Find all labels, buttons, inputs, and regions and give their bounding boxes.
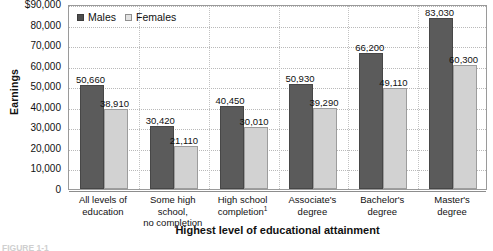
x-axis-category-label: Master'sdegree <box>417 194 487 217</box>
bar-value-label: 66,200 <box>355 43 384 53</box>
gridline <box>69 27 486 28</box>
y-axis-tick-label: 40,000 <box>30 103 61 113</box>
x-axis-category-line: Some high school, <box>138 194 208 217</box>
y-axis-tick-label: 60,000 <box>30 62 61 72</box>
x-axis-category-line: degree <box>278 206 348 218</box>
y-axis-tick-label: 20,000 <box>30 144 61 154</box>
gridline <box>69 109 486 110</box>
bar-females <box>313 108 337 189</box>
bar-value-label: 21,110 <box>170 136 198 146</box>
y-axis-tick-label: 30,000 <box>30 123 61 133</box>
gridline <box>69 88 486 89</box>
group-separator <box>139 6 140 189</box>
x-axis-category-label: All levels ofeducation <box>68 194 138 217</box>
bar-value-label: 50,930 <box>285 74 314 84</box>
axis-baseline <box>69 191 486 192</box>
gridline <box>69 47 486 48</box>
x-axis-category-line: degree <box>347 206 417 218</box>
group-separator <box>279 6 280 189</box>
x-axis-category-label: Bachelor'sdegree <box>347 194 417 217</box>
bar-males <box>429 18 453 189</box>
x-axis-title: Highest level of educational attainment <box>68 224 487 236</box>
x-axis-category-label: Associate'sdegree <box>278 194 348 217</box>
x-axis-category-label: High schoolcompletion1 <box>208 194 278 217</box>
bar-value-label: 39,290 <box>309 98 338 108</box>
x-axis-category-line: education <box>68 206 138 218</box>
bar-value-label: 38,910 <box>100 99 129 109</box>
legend-swatch-females-icon <box>125 14 132 21</box>
bar-females <box>244 127 268 189</box>
gridline <box>69 150 486 151</box>
y-axis-tick-label: 50,000 <box>30 82 61 92</box>
x-axis-category-line: Master's <box>417 194 487 206</box>
y-axis-tick-label: 0 <box>55 185 61 195</box>
x-axis-category-line: Bachelor's <box>347 194 417 206</box>
group-separator <box>348 6 349 189</box>
y-axis-tick-label: 80,000 <box>30 21 61 31</box>
legend-item-females: Females <box>125 11 176 23</box>
footnote-marker: 1 <box>264 204 268 211</box>
figure-caption: FIGURE 1-1 <box>2 243 49 251</box>
bar-value-label: 50,660 <box>76 75 105 85</box>
figure-container: Earnings $90,00080,00070,00060,00050,000… <box>0 0 493 251</box>
x-axis-tick-labels: All levels ofeducationSome high school,n… <box>68 194 487 222</box>
bar-value-label: 30,010 <box>240 117 269 127</box>
x-axis-category-line: completion1 <box>208 206 278 218</box>
y-axis-tick-labels: $90,00080,00070,00060,00050,00040,00030,… <box>0 0 64 195</box>
bar-females <box>383 88 407 189</box>
bar-females <box>104 109 128 189</box>
y-axis-tick-label: 70,000 <box>30 41 61 51</box>
bar-value-label: 83,030 <box>425 8 454 18</box>
y-axis-tick-label: $90,000 <box>25 0 61 10</box>
legend-label-males: Males <box>88 11 116 23</box>
x-axis-category-line: All levels of <box>68 194 138 206</box>
legend-item-males: Males <box>77 11 116 23</box>
bar-females <box>174 146 198 189</box>
x-axis-category-line: degree <box>417 206 487 218</box>
bar-males <box>359 53 383 189</box>
gridline <box>69 6 486 7</box>
legend-label-females: Females <box>136 11 176 23</box>
gridline <box>69 129 486 130</box>
gridline <box>69 68 486 69</box>
x-axis-category-line: Associate's <box>278 194 348 206</box>
legend-swatch-males-icon <box>77 14 84 21</box>
bar-value-label: 30,420 <box>146 116 175 126</box>
y-axis-tick-label: 10,000 <box>30 164 61 174</box>
bar-value-label: 40,450 <box>216 96 245 106</box>
bar-females <box>453 65 477 189</box>
bar-value-label: 60,300 <box>449 55 478 65</box>
bar-value-label: 49,110 <box>379 78 407 88</box>
plot-area: 50,66038,91030,42021,11040,45030,01050,9… <box>68 5 487 190</box>
group-separator <box>418 6 419 189</box>
legend: Males Females <box>77 11 176 23</box>
group-separator <box>209 6 210 189</box>
gridline <box>69 170 486 171</box>
